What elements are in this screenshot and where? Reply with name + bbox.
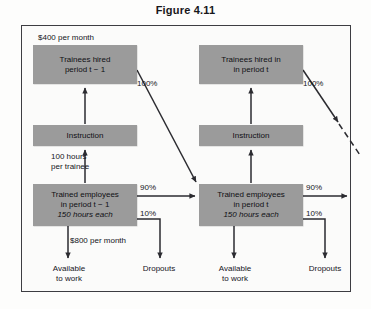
label-hours-per-trainee: 100 hours per trainee	[51, 152, 89, 172]
figure-container: Figure 4.11	[0, 0, 371, 309]
label-cost-per-trainee: $400 per month	[38, 33, 94, 43]
label-90-percent-left: 90%	[140, 183, 156, 193]
box-line-3: 150 hours each	[223, 210, 278, 220]
box-line-2: period t − 1	[65, 65, 105, 75]
label-hours-line-1: 100 hours	[51, 152, 87, 161]
box-trained-employees-period-t: Trained employees in period t 150 hours …	[199, 184, 303, 226]
figure-title: Figure 4.11	[0, 4, 371, 16]
box-instruction-period-t-minus-1: Instruction	[33, 125, 137, 146]
label-10-percent-right: 10%	[306, 209, 322, 219]
box-line-1: Trainees hired	[60, 55, 111, 65]
box-line-1: Instruction	[67, 131, 104, 141]
label-available-to-work-prev: Available to work	[41, 264, 97, 284]
label-available-to-work-cur: Available to work	[207, 264, 263, 284]
box-line-2: in period t	[233, 65, 268, 75]
box-line-3: 150 hours each	[57, 210, 112, 220]
label-cost-per-trained-employee: $800 per month	[70, 236, 126, 246]
box-trainees-hired-period-t: Trainees hired in in period t	[199, 45, 303, 84]
box-line-1: Instruction	[233, 131, 270, 141]
label-available-line-2: to work	[56, 274, 82, 283]
label-100-percent-right: 100%	[303, 79, 323, 89]
box-trained-employees-period-t-minus-1: Trained employees in period t − 1 150 ho…	[33, 184, 137, 226]
box-line-1: Trained employees	[51, 190, 119, 200]
label-available-line-2: to work	[222, 274, 248, 283]
box-instruction-period-t: Instruction	[199, 125, 303, 146]
label-available-line-1: Available	[53, 264, 85, 273]
box-line-1: Trainees hired in	[221, 55, 280, 65]
box-line-1: Trained employees	[217, 190, 285, 200]
label-10-percent-left: 10%	[140, 209, 156, 219]
label-dropouts-cur: Dropouts	[297, 264, 353, 274]
label-dropouts-prev: Dropouts	[131, 264, 187, 274]
label-90-percent-right: 90%	[306, 183, 322, 193]
label-available-line-1: Available	[219, 264, 251, 273]
label-100-percent-left: 100%	[137, 79, 157, 89]
box-line-2: in period t − 1	[61, 200, 110, 210]
box-line-2: in period t	[233, 200, 268, 210]
label-hours-line-2: per trainee	[51, 162, 89, 171]
box-trainees-hired-period-t-minus-1: Trainees hired period t − 1	[33, 45, 137, 84]
